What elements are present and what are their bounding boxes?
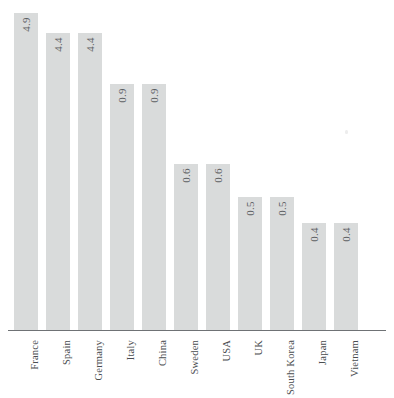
bar-germany[interactable]: 4.4 <box>78 33 102 331</box>
bar-italy[interactable]: 0.9 <box>110 84 134 331</box>
bar-value-sweden: 0.6 <box>181 168 192 182</box>
category-label-usa: USA <box>222 340 233 362</box>
category-label-china: China <box>158 340 169 366</box>
bar-slot-south-korea: 0.5 <box>270 0 294 331</box>
bar-slot-sweden: 0.6 <box>174 0 198 331</box>
cat-slot-spain: Spain <box>46 336 70 396</box>
x-axis-baseline <box>8 330 386 331</box>
category-label-japan: Japan <box>318 340 329 365</box>
x-axis-category-labels: France Spain Germany Italy China Sweden … <box>14 336 358 396</box>
bar-france[interactable]: 4.9 <box>14 13 38 331</box>
category-label-france: France <box>30 340 41 370</box>
bar-slot-france: 4.9 <box>14 0 38 331</box>
category-label-south-korea: South Korea <box>286 340 297 395</box>
cat-slot-vietnam: Vietnam <box>334 336 358 396</box>
cat-slot-japan: Japan <box>302 336 326 396</box>
bar-value-china: 0.9 <box>149 88 160 102</box>
bar-series: 4.9 4.4 4.4 0.9 0.9 <box>14 0 358 331</box>
cat-slot-south-korea: South Korea <box>270 336 294 396</box>
bar-value-france: 4.9 <box>21 17 32 31</box>
bar-slot-vietnam: 0.4 <box>334 0 358 331</box>
bar-spain[interactable]: 4.4 <box>46 33 70 331</box>
bar-slot-spain: 4.4 <box>46 0 70 331</box>
bar-value-japan: 0.4 <box>309 227 320 241</box>
bar-uk[interactable]: 0.5 <box>238 197 262 331</box>
cat-slot-germany: Germany <box>78 336 102 396</box>
bar-value-south-korea: 0.5 <box>277 201 288 215</box>
bar-slot-uk: 0.5 <box>238 0 262 331</box>
category-label-spain: Spain <box>62 340 73 365</box>
bar-value-uk: 0.5 <box>245 201 256 215</box>
bar-slot-italy: 0.9 <box>110 0 134 331</box>
bar-south-korea[interactable]: 0.5 <box>270 197 294 331</box>
category-label-vietnam: Vietnam <box>350 340 361 377</box>
bar-chart: 4.9 4.4 4.4 0.9 0.9 <box>0 0 394 398</box>
bar-value-vietnam: 0.4 <box>341 227 352 241</box>
category-label-uk: UK <box>254 340 265 356</box>
scan-artifact-speck <box>345 130 348 134</box>
bar-sweden[interactable]: 0.6 <box>174 164 198 331</box>
bar-slot-china: 0.9 <box>142 0 166 331</box>
bar-slot-japan: 0.4 <box>302 0 326 331</box>
cat-slot-china: China <box>142 336 166 396</box>
bar-value-spain: 4.4 <box>53 37 64 51</box>
cat-slot-france: France <box>14 336 38 396</box>
bar-japan[interactable]: 0.4 <box>302 223 326 331</box>
bar-china[interactable]: 0.9 <box>142 84 166 331</box>
cat-slot-uk: UK <box>238 336 262 396</box>
category-label-germany: Germany <box>94 340 105 380</box>
bar-slot-usa: 0.6 <box>206 0 230 331</box>
bar-slot-germany: 4.4 <box>78 0 102 331</box>
bar-value-italy: 0.9 <box>117 88 128 102</box>
bar-value-usa: 0.6 <box>213 168 224 182</box>
bar-vietnam[interactable]: 0.4 <box>334 223 358 331</box>
bar-usa[interactable]: 0.6 <box>206 164 230 331</box>
plot-area: 4.9 4.4 4.4 0.9 0.9 <box>0 0 394 331</box>
cat-slot-usa: USA <box>206 336 230 396</box>
cat-slot-sweden: Sweden <box>174 336 198 396</box>
bar-value-germany: 4.4 <box>85 37 96 51</box>
cat-slot-italy: Italy <box>110 336 134 396</box>
category-label-sweden: Sweden <box>190 340 201 374</box>
category-label-italy: Italy <box>126 340 137 360</box>
